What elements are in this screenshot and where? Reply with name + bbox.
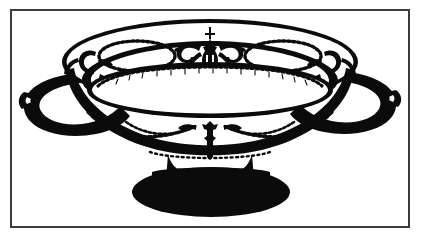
figure-root — [0, 0, 421, 238]
pedestal-foot — [132, 154, 290, 217]
inner-bowl-well — [87, 62, 333, 118]
bowl-illustration — [0, 0, 421, 238]
